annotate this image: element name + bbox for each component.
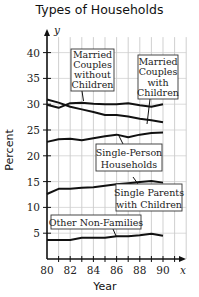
y-axis-symbol: y: [53, 24, 61, 36]
annotation-text: Children: [137, 87, 179, 98]
y-tick-label: 35: [27, 72, 40, 84]
annotation-text: with: [147, 77, 168, 88]
x-axis-arrow-icon: [179, 256, 186, 262]
x-tick-label: 80: [40, 264, 53, 276]
annotation-pointer: [82, 91, 84, 101]
annotation-2: Single-PersonHouseholds: [96, 134, 162, 171]
x-axis-symbol: x: [180, 264, 186, 276]
y-tick-label: 40: [27, 47, 40, 59]
annotation-pointer: [113, 229, 116, 236]
y-tick-label: 5: [33, 227, 40, 239]
y-tick-label: 10: [27, 201, 40, 213]
x-axis-label: Year: [92, 280, 117, 293]
annotation-text: with Children: [116, 199, 182, 210]
x-tick-label: 90: [156, 264, 169, 276]
y-tick-label: 20: [27, 150, 40, 162]
annotation-0: MarriedCoupleswithoutChildren: [71, 49, 114, 101]
annotation-text: Single Parents: [114, 187, 184, 198]
annotation-1: MarriedCoupleswithChildren: [137, 55, 179, 124]
annotation-text: Households: [101, 159, 158, 170]
y-axis-label: Percent: [3, 129, 16, 171]
annotation-text: Married: [138, 56, 177, 67]
x-tick-label: 82: [64, 264, 77, 276]
x-tick-label: 84: [87, 264, 101, 276]
annotation-text: Single-Person: [96, 147, 162, 158]
y-tick-label: 30: [27, 98, 40, 110]
annotation-text: Children: [72, 79, 114, 90]
y-tick-label: 25: [27, 124, 40, 136]
annotation-text: Other Non-Families: [49, 217, 144, 228]
line-chart: 510152025303540808284868890 MarriedCoupl…: [0, 0, 199, 297]
y-axis-arrow-icon: [44, 29, 50, 36]
y-tick-label: 15: [27, 176, 40, 188]
x-tick-label: 86: [110, 264, 124, 276]
annotation-text: Couples: [139, 66, 178, 77]
x-tick-label: 88: [133, 264, 146, 276]
